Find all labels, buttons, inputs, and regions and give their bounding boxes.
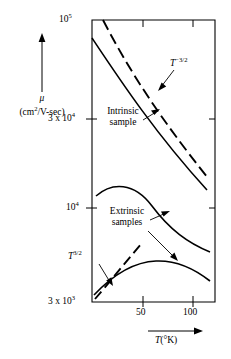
y-axis-ticks [86, 119, 215, 208]
intrinsic-line-2: sample [110, 117, 137, 127]
annotation-t-three-halves: T3/2 [68, 250, 82, 262]
annotation-t-minus-three-halves: T−3/2 [170, 57, 187, 69]
mu-axis-arrow [39, 33, 46, 92]
y-tick-label-3e3: 3 x 103 [48, 295, 75, 307]
leader-arrow-extrinsic-upper [150, 211, 170, 220]
intrinsic-line-1: Intrinsic [107, 106, 139, 116]
extrinsic-line-2: samples [112, 217, 143, 227]
plot-canvas [0, 0, 231, 359]
x-axis-title: T(°K) [155, 336, 177, 346]
x-tick-label-100: 100 [183, 308, 197, 318]
leader-arrow-t-minus-three-halves [158, 70, 174, 91]
annotation-intrinsic-sample: Intrinsic sample [99, 106, 147, 127]
y-axis-units-label: (cm2/V-sec) [1, 106, 83, 118]
curve-t-minus-three-halves [103, 20, 208, 178]
mobility-vs-temperature-figure: 105 3 x 104 104 3 x 103 50 100 μ (cm2/V-… [0, 0, 231, 359]
plot-frame [92, 20, 215, 302]
leader-arrow-extrinsic-lower [148, 231, 178, 261]
y-axis-symbol-label: μ [33, 94, 51, 104]
t-axis-arrow [148, 328, 203, 335]
curve-t-three-halves [95, 243, 142, 299]
y-tick-label-1e4: 104 [66, 201, 79, 213]
annotation-extrinsic-samples: Extrinsic samples [102, 206, 152, 227]
y-tick-label-1e5: 105 [59, 13, 72, 25]
extrinsic-line-1: Extrinsic [110, 206, 144, 216]
x-tick-label-50: 50 [136, 308, 146, 318]
